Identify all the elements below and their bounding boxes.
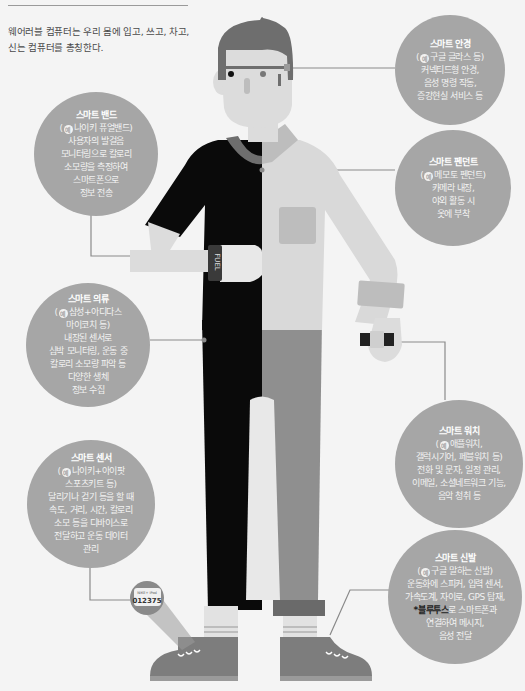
callout-smart-clothing: 스마트 의류 (예삼성+아디다스 마이코치 등) 내장된 센서로 심박 모니터링… — [26, 283, 150, 407]
callout-title: 스마트 신발 — [435, 552, 476, 565]
example-badge-icon: 예 — [62, 468, 71, 477]
callout-title: 스마트 워치 — [439, 425, 480, 438]
torso — [145, 124, 405, 330]
callout-smart-band: 스마트 밴드 (예나이키 퓨얼밴드) 사용자의 발걸음 모니터링으로 칼로리 소… — [34, 92, 158, 216]
example-badge-icon: 예 — [424, 172, 433, 181]
callout-title: 스마트 의류 — [68, 293, 109, 306]
legs — [202, 320, 325, 646]
example-badge-icon: 예 — [420, 54, 429, 63]
example-badge-icon: 예 — [64, 125, 73, 134]
callout-title: 스마트 밴드 — [76, 109, 117, 122]
head — [213, 17, 293, 142]
bluetooth-highlight: *블루투스 — [414, 605, 449, 615]
callout-smart-watch: 스마트 워치 (예애플워치, 갤럭시기어, 페블워치 등) 전화 및 문자, 일… — [395, 400, 523, 528]
callout-smart-sensor: 스마트 센서 (예나이키+아이팟 스포츠키트 등) 달리기나 걷기 등을 할 때… — [27, 440, 155, 568]
example-badge-icon: 예 — [440, 441, 449, 450]
callout-smart-glasses: 스마트 안경 (예구글 글라스 등) 커넥티드형 안경, 음성 명령 작동, 증… — [395, 15, 505, 125]
sensor-display-number: 012375 — [132, 597, 161, 605]
callout-smart-pendant: 스마트 펜던트 (예메모토 펜던트) 카메라 내장, 야외 활동 시 옷에 부착 — [395, 130, 511, 246]
example-badge-icon: 예 — [421, 568, 430, 577]
fuel-band-label: FUEL — [213, 253, 221, 271]
callout-title: 스마트 센서 — [71, 452, 112, 465]
callout-title: 스마트 펜던트 — [429, 156, 477, 169]
callout-smart-shoes: 스마트 신발 (예구글 말하는 신발) 운동화에 스피커, 입력 센서, 가속도… — [388, 530, 522, 664]
sensor-display-label: NIKE+ iPod — [137, 591, 157, 595]
example-badge-icon: 예 — [59, 309, 68, 318]
callout-title: 스마트 안경 — [430, 38, 471, 51]
